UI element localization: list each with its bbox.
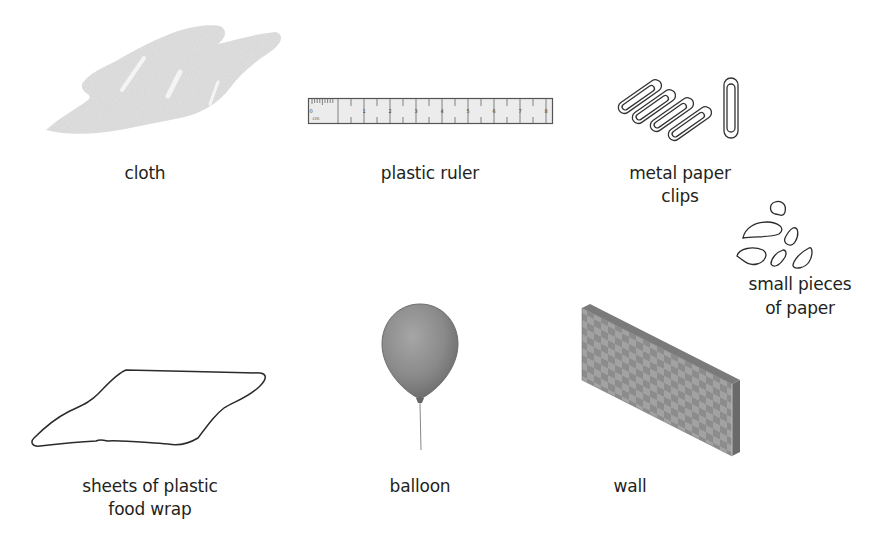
svg-text:3: 3: [414, 108, 417, 114]
ruler-icon: 0123 45678 cm: [308, 98, 553, 124]
svg-text:7: 7: [518, 108, 521, 114]
svg-text:5: 5: [466, 108, 469, 114]
cloth-icon: [40, 22, 285, 140]
svg-text:8: 8: [544, 108, 547, 114]
cloth-label: cloth: [110, 163, 180, 184]
svg-text:4: 4: [440, 108, 443, 114]
paper-pieces-icon: [735, 200, 835, 270]
svg-text:cm: cm: [313, 116, 320, 121]
svg-text:6: 6: [492, 108, 495, 114]
wall-label: wall: [600, 476, 660, 497]
plastic-wrap-icon: [28, 368, 268, 450]
paper-clip-icon: [610, 76, 750, 146]
svg-text:2: 2: [388, 108, 391, 114]
svg-text:1: 1: [362, 108, 365, 114]
small-pieces-of-paper-label-line2: of paper: [730, 298, 870, 319]
balloon-icon: [378, 302, 462, 452]
plastic-ruler-label: plastic ruler: [360, 163, 500, 184]
small-pieces-of-paper-label-line1: small pieces: [730, 274, 870, 295]
balloon-label: balloon: [370, 476, 470, 497]
metal-paper-clips-label-line2: clips: [610, 186, 750, 207]
metal-paper-clips-label-line1: metal paper: [610, 163, 750, 184]
svg-text:0: 0: [309, 108, 312, 114]
plastic-food-wrap-label-line1: sheets of plastic: [60, 476, 240, 497]
plastic-food-wrap-label-line2: food wrap: [60, 499, 240, 520]
wall-icon: [580, 298, 740, 458]
